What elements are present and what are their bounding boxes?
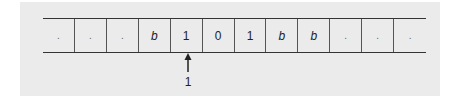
head-state-label: 1 (180, 75, 196, 89)
tape-cell: 1 (235, 19, 267, 52)
tape-cell: . (394, 19, 426, 52)
tape-cell: . (43, 19, 75, 52)
tape-cell: . (330, 19, 362, 52)
tape-cell: b (298, 19, 330, 52)
tape-cell: . (362, 19, 394, 52)
tape-cell: 0 (203, 19, 235, 52)
up-arrow-icon (180, 53, 196, 73)
tape-cell: b (266, 19, 298, 52)
tape-cell: . (75, 19, 107, 52)
tape-cell-head: 1 (171, 19, 203, 52)
tape-cell: b (139, 19, 171, 52)
tape-cell: . (107, 19, 139, 52)
turing-tape: . . . b 1 0 1 b b . . . (43, 18, 426, 53)
read-head: 1 (180, 53, 196, 93)
